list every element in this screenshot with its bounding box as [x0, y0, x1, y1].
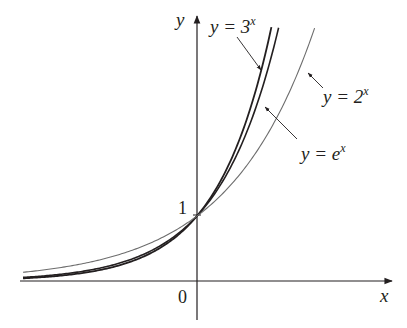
svg-text:y = 2x: y = 2x [321, 84, 369, 107]
arrow-2x [308, 73, 323, 88]
label-ex: y = ex [265, 107, 346, 164]
y-axis-label: y [174, 9, 185, 30]
plot-area: y x 0 1 y = 3x y = 2x y = ex [0, 0, 407, 328]
curve-y-e-x [23, 28, 279, 278]
svg-text:y = ex: y = ex [299, 141, 346, 164]
label-2x: y = 2x [308, 73, 369, 107]
svg-text:y = 3x: y = 3x [208, 14, 256, 37]
arrow-3x [237, 37, 261, 70]
curve-y-3-x [23, 27, 271, 278]
curves-group [23, 27, 315, 278]
x-axis-label: x [379, 285, 389, 306]
exponential-functions-figure: y x 0 1 y = 3x y = 2x y = ex [0, 0, 407, 328]
arrow-ex [265, 107, 297, 139]
origin-label: 0 [178, 287, 187, 307]
curve-y-2-x [23, 28, 315, 272]
y-tick-1-label: 1 [178, 198, 187, 218]
label-3x: y = 3x [208, 14, 261, 70]
